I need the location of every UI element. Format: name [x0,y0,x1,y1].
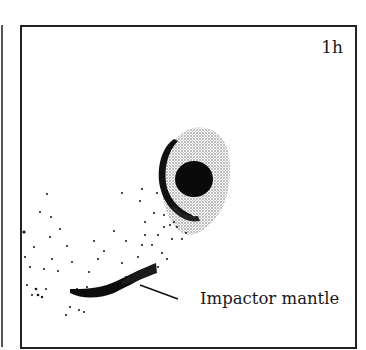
debris-particles [22,188,187,316]
adjacent-panel-edge [1,25,3,347]
figure-panel: 1h Impactor mantle [20,25,357,349]
annotation-leader-line [140,285,178,299]
impactor-mantle-label: Impactor mantle [200,289,339,308]
planet-core [175,161,213,197]
time-label: 1h [321,37,343,57]
